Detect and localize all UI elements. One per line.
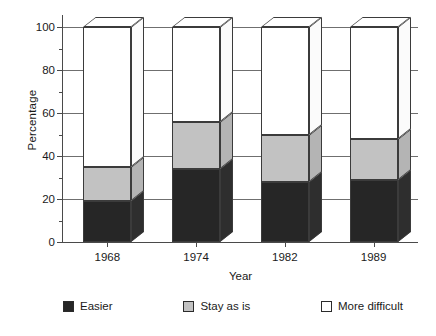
y-axis-minor-tick: [59, 178, 63, 179]
bar-segment-more: [83, 27, 131, 167]
y-axis-minor-tick: [59, 49, 63, 50]
y-axis-tick: [57, 199, 63, 200]
bar-segment-stay: [83, 167, 131, 201]
bar-segment-stay: [261, 135, 309, 182]
legend-swatch-stay: [183, 301, 194, 312]
x-axis-tick: [374, 242, 375, 247]
stacked-bar-chart: Percentage 020406080100 1968197419821989…: [0, 0, 436, 336]
bar-1989: [350, 27, 398, 242]
x-axis-tick-label: 1974: [183, 251, 209, 263]
gridline: [63, 242, 418, 243]
y-axis-tick-label: 100: [36, 21, 55, 33]
y-axis-tick-label: 40: [42, 150, 55, 162]
x-axis-tick: [107, 242, 108, 247]
bar-1968: [83, 27, 131, 242]
legend-label: Easier: [80, 300, 113, 312]
legend-item: More difficult: [321, 300, 403, 312]
x-axis-tick: [196, 242, 197, 247]
bar-side-stay: [220, 111, 233, 168]
x-axis-tick-label: 1982: [272, 251, 298, 263]
bar-side-more: [309, 17, 322, 135]
y-axis-tick-label: 0: [49, 236, 55, 248]
x-axis-tick-label: 1968: [95, 251, 121, 263]
bar-segment-easier: [261, 182, 309, 242]
bar-segment-easier: [350, 180, 398, 242]
y-axis-tick: [57, 70, 63, 71]
bar-side-more: [220, 17, 233, 122]
legend-label: Stay as is: [200, 300, 250, 312]
legend-swatch-easier: [63, 301, 74, 312]
bar-segment-easier: [172, 169, 220, 242]
bar-side-more: [398, 17, 411, 139]
y-axis-minor-tick: [59, 221, 63, 222]
legend-label: More difficult: [338, 300, 403, 312]
y-axis-tick: [57, 242, 63, 243]
y-axis-tick-label: 60: [42, 107, 55, 119]
bar-1982: [261, 27, 309, 242]
chart-legend: EasierStay as isMore difficult: [63, 300, 403, 312]
bar-1974: [172, 27, 220, 242]
y-axis-title: Percentage: [26, 20, 46, 220]
x-axis-title: Year: [63, 270, 418, 282]
y-axis-minor-tick: [59, 135, 63, 136]
plot-area: 020406080100 1968197419821989: [63, 27, 418, 242]
y-axis-tick-label: 20: [42, 193, 55, 205]
bar-side-easier: [220, 159, 233, 242]
bar-segment-more: [172, 27, 220, 122]
legend-item: Stay as is: [183, 300, 250, 312]
bar-side-more: [131, 17, 144, 167]
x-axis-tick: [285, 242, 286, 247]
legend-swatch-more: [321, 301, 332, 312]
bar-segment-stay: [350, 139, 398, 180]
y-axis-tick: [57, 27, 63, 28]
bar-segment-stay: [172, 122, 220, 169]
y-axis-minor-tick: [59, 92, 63, 93]
bar-segment-more: [261, 27, 309, 135]
bar-segment-more: [350, 27, 398, 139]
y-axis-tick: [57, 156, 63, 157]
y-axis-tick-label: 80: [42, 64, 55, 76]
bar-segment-easier: [83, 201, 131, 242]
x-axis-tick-label: 1989: [361, 251, 387, 263]
bar-side-easier: [398, 169, 411, 242]
legend-item: Easier: [63, 300, 113, 312]
bar-side-easier: [309, 172, 322, 242]
y-axis-tick: [57, 113, 63, 114]
